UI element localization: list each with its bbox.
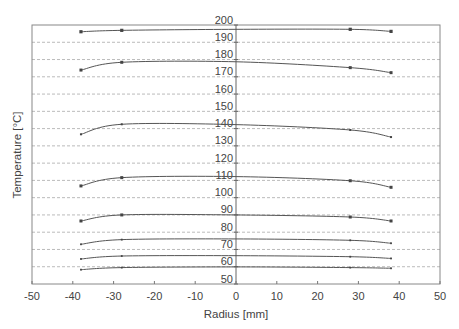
x-tick-label: -50 [24,290,40,302]
x-tick-label: -30 [106,290,122,302]
data-point-marker [79,219,82,222]
data-point-marker [389,30,392,33]
y-tick-label: 140 [215,117,233,129]
data-point-marker [121,123,123,125]
x-tick-label: -20 [146,290,162,302]
x-axis-label: Radius [mm] [204,308,269,320]
data-point-marker [390,258,392,260]
y-tick-label: 110 [215,169,233,181]
chart-canvas: 5060708090100110120130140150160170180190… [0,0,459,329]
y-tick-label: 80 [221,221,233,233]
y-axis-label: Temperature [°C] [11,111,23,198]
x-tick-label: 20 [311,290,323,302]
y-tick-label: 130 [215,134,233,146]
y-tick-label: 190 [215,31,233,43]
data-point-marker [390,219,393,222]
data-point-marker [120,61,123,64]
data-point-marker [390,186,393,189]
x-tick-label: -10 [187,290,203,302]
data-point-marker [349,179,352,182]
data-point-marker [349,66,352,69]
x-tick-label: 30 [352,290,364,302]
data-point-marker [80,269,82,271]
data-point-marker [79,69,82,72]
y-tick-label: 60 [221,255,233,267]
data-point-marker [390,267,392,269]
data-point-marker [349,28,352,31]
data-point-marker [80,258,82,260]
data-point-marker [121,267,123,269]
y-axis-ticks: 5060708090100110120130140150160170180190… [215,14,238,285]
data-point-marker [349,239,351,241]
data-point-marker [349,267,351,269]
y-tick-label: 50 [221,273,233,285]
data-point-marker [121,239,123,241]
temperature-radius-chart: 5060708090100110120130140150160170180190… [0,0,459,329]
y-tick-label: 120 [215,152,233,164]
data-point-marker [120,176,123,179]
data-point-marker [390,71,393,74]
x-tick-label: 0 [233,290,239,302]
y-tick-label: 180 [215,48,233,60]
data-point-marker [79,30,82,33]
y-tick-label: 100 [215,186,233,198]
y-tick-label: 160 [215,83,233,95]
data-point-marker [79,184,82,187]
data-point-marker [80,243,82,245]
y-tick-label: 200 [215,14,233,26]
x-tick-label: -40 [65,290,81,302]
y-tick-label: 70 [221,238,233,250]
data-point-marker [349,256,351,258]
y-tick-label: 150 [215,100,233,112]
data-point-marker [349,129,351,131]
data-point-marker [390,136,392,138]
y-tick-label: 170 [215,65,233,77]
data-point-marker [120,29,123,32]
data-point-marker [121,255,123,257]
x-tick-label: 10 [271,290,283,302]
data-point-marker [120,213,123,216]
data-point-marker [390,242,392,244]
x-tick-label: 40 [393,290,405,302]
data-point-marker [349,216,352,219]
y-tick-label: 90 [221,203,233,215]
x-tick-label: 50 [434,290,446,302]
data-point-marker [80,133,82,135]
